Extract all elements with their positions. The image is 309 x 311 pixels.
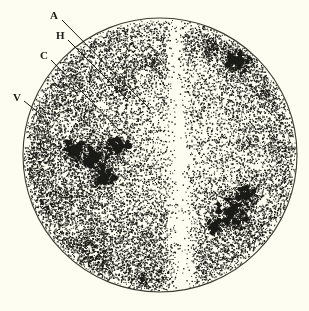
figure-root: AHCV: [0, 0, 309, 311]
label-v: V: [13, 92, 21, 103]
label-a: A: [50, 10, 58, 21]
label-h: H: [56, 30, 65, 41]
label-layer: AHCV: [0, 0, 309, 311]
label-c: C: [40, 50, 48, 61]
